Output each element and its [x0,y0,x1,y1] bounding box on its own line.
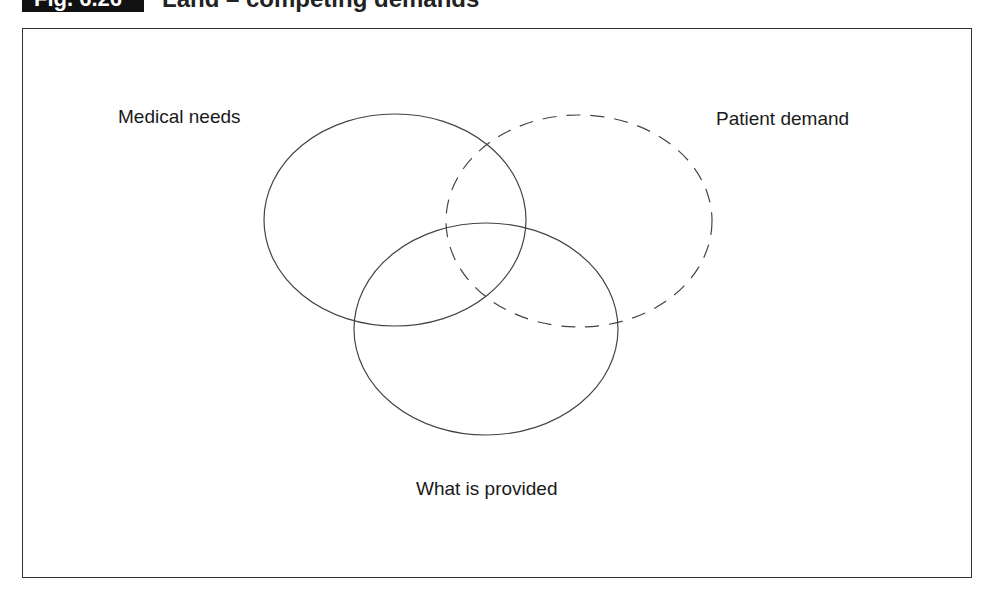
patient-demand-ellipse [446,115,712,327]
label-what-is-provided: What is provided [416,478,558,500]
label-medical-needs: Medical needs [118,106,241,128]
venn-diagram [0,0,996,606]
medical-needs-ellipse [264,114,526,326]
what-is-provided-ellipse [354,223,618,435]
label-patient-demand: Patient demand [716,108,849,130]
